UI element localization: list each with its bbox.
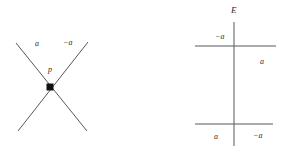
vertex-dot (47, 84, 54, 91)
label-a-upper-left: a (35, 40, 39, 48)
label-a-lower-left: a (214, 133, 218, 141)
right-diagram-canvas (142, 0, 284, 149)
label-minus-a-upper-right: −a (63, 39, 73, 47)
label-a-right: a (260, 58, 264, 66)
panel-left-crossing-diagram: a −a p (0, 0, 142, 149)
label-minus-a-upper: −a (215, 33, 225, 41)
label-p-vertex: p (48, 66, 52, 74)
figure-root: a −a p E −a a a −a (0, 0, 284, 149)
left-diagram-canvas (0, 0, 142, 149)
label-minus-a-lower-right: −a (253, 132, 263, 140)
label-E-title: E (231, 6, 237, 15)
panel-right-ladder-diagram: E −a a a −a (142, 0, 284, 149)
